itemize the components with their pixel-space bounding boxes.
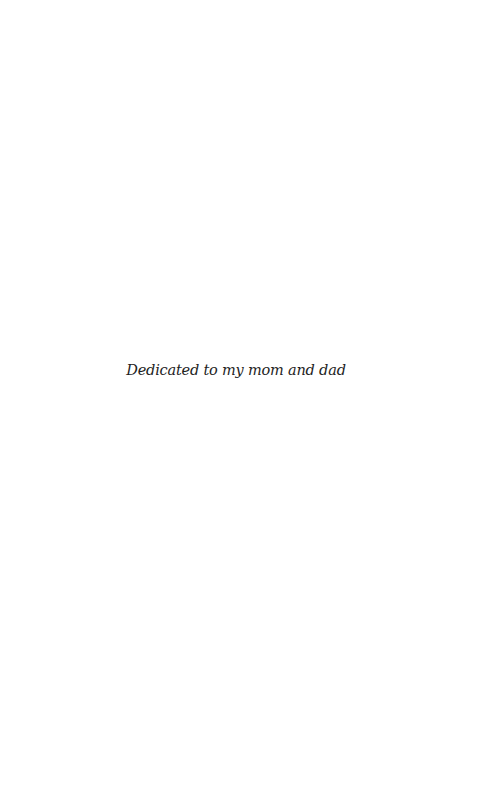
dedication-text: Dedicated to my mom and dad <box>0 362 486 378</box>
dedication-page: Dedicated to my mom and dad <box>0 0 486 812</box>
